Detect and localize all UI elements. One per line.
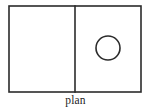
right-room-area [75, 6, 141, 92]
figure-caption: plan [0, 93, 151, 107]
figure-canvas: plan [0, 0, 151, 111]
left-room-area [9, 6, 75, 92]
